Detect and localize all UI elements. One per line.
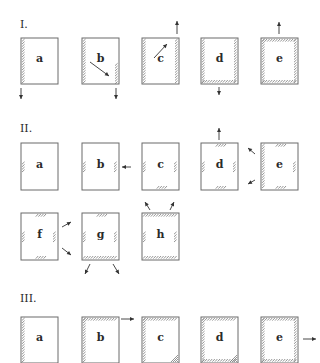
panel-h: h [142, 202, 179, 260]
panel-c: c [142, 21, 179, 84]
arrow-icon [217, 87, 221, 95]
panel-a: a [19, 38, 58, 99]
section-label: III. [20, 292, 37, 305]
arrow-icon [114, 88, 118, 99]
panel-b: b [82, 143, 131, 190]
panel-label: a [36, 158, 43, 171]
panel-d: d [201, 317, 238, 363]
panel-label: d [216, 331, 224, 344]
arrow-icon [248, 148, 255, 154]
diagram-canvas: I.abcdeII.abcdefghIII.abcde [0, 0, 320, 363]
panel-a: a [21, 143, 58, 190]
arrow-icon [85, 264, 90, 274]
panel-c: c [142, 317, 179, 363]
panel-label: d [216, 158, 224, 171]
panel-label: a [36, 52, 43, 65]
panel-label: b [97, 52, 105, 65]
panel-f: f [21, 213, 71, 260]
arrow-icon [170, 202, 174, 210]
arrow-icon [113, 264, 119, 274]
panel-g: g [82, 213, 119, 274]
panel-e: e [248, 143, 298, 190]
section-2: II.abcdefgh [20, 122, 298, 274]
arrow-icon [62, 222, 71, 227]
arrow-icon [303, 337, 316, 341]
panel-label: e [276, 331, 283, 344]
panel-b: b [82, 317, 134, 363]
panel-c: c [142, 143, 179, 190]
arrow-icon [175, 21, 179, 34]
panel-b: b [82, 38, 119, 99]
panel-label: g [97, 228, 105, 241]
panel-e: e [261, 317, 316, 363]
panel-d: d [201, 128, 238, 190]
panel-label: d [216, 52, 224, 65]
panel-label: e [276, 158, 283, 171]
arrow-icon [248, 180, 255, 184]
panel-label: c [157, 158, 164, 171]
panel-label: c [157, 331, 164, 344]
arrow-icon [121, 317, 134, 321]
section-3: III.abcde [20, 292, 316, 363]
panel-label: b [97, 158, 105, 171]
panel-label: a [36, 331, 43, 344]
panel-e: e [261, 22, 298, 84]
section-label: I. [20, 18, 28, 31]
arrow-icon [122, 165, 131, 169]
arrow-icon [62, 248, 71, 255]
panel-a: a [21, 317, 58, 363]
section-label: II. [20, 122, 32, 135]
panel-d: d [201, 38, 238, 95]
arrow-icon [19, 88, 23, 99]
panel-label: h [157, 228, 165, 241]
panel-label: b [97, 331, 105, 344]
arrow-icon [277, 22, 281, 34]
panel-label: e [276, 52, 283, 65]
arrow-icon [145, 202, 150, 210]
section-1: I.abcde [19, 18, 298, 99]
arrow-icon [217, 128, 221, 140]
